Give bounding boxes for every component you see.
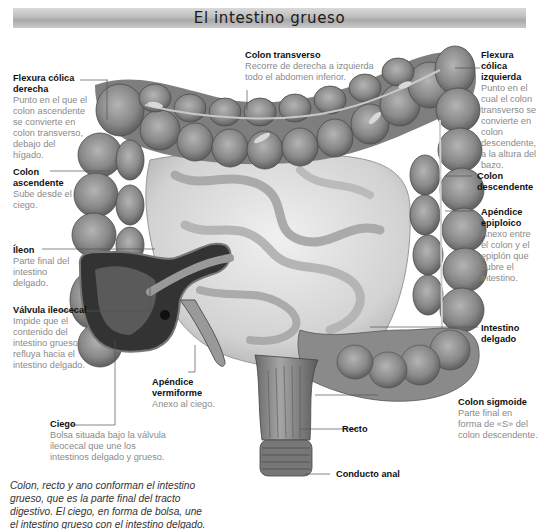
label-desc: Parte final en forma de «S» del colon de… xyxy=(458,408,538,441)
label-flexura-colica-derecha: Flexura cólica derecha Punto en el que e… xyxy=(13,73,88,161)
label-name: Conducto anal xyxy=(336,469,436,480)
label-desc: Anexo entre el colon y el epiplón que cu… xyxy=(481,229,537,284)
label-desc: Recorre de derecha a izquierda todo el a… xyxy=(245,61,375,83)
label-name: Flexura cólica derecha xyxy=(13,73,88,95)
label-conducto-anal: Conducto anal xyxy=(336,469,436,480)
label-name: Colon ascendente xyxy=(13,167,83,189)
label-name: Apéndice epiploico xyxy=(481,207,537,229)
rectum xyxy=(255,355,318,440)
label-recto: Recto xyxy=(342,424,392,435)
label-flexura-colica-izquierda: Flexura cólica izquierda Punto en el cua… xyxy=(481,50,537,171)
label-desc: Punto en el que el colon ascendente se c… xyxy=(13,95,88,161)
label-ileon: Íleon Parte final del intestino delgado. xyxy=(13,245,73,289)
label-desc: Bolsa situada bajo la válvula ileocecal … xyxy=(50,430,170,463)
label-intestino-delgado: Intestino delgado xyxy=(481,323,537,345)
label-name: Recto xyxy=(342,424,392,435)
label-colon-transverso: Colon transverso Recorre de derecha a iz… xyxy=(245,50,375,83)
label-name: Intestino delgado xyxy=(481,323,537,345)
label-name: Colon descendente xyxy=(477,171,539,193)
label-colon-sigmoide: Colon sigmoide Parte final en forma de «… xyxy=(458,397,538,441)
label-apendice-epiploico: Apéndice epiploico Anexo entre el colon … xyxy=(481,207,537,284)
label-colon-ascendente: Colon ascendente Sube desde el ciego. xyxy=(13,167,83,211)
label-colon-descendente: Colon descendente xyxy=(477,171,539,193)
label-desc: Sube desde el ciego. xyxy=(13,189,83,211)
label-ciego: Ciego Bolsa situada bajo la válvula ileo… xyxy=(50,419,170,463)
label-name: Flexura cólica izquierda xyxy=(481,50,537,83)
label-desc: Impide que el contenido del intestino gr… xyxy=(13,316,98,371)
label-valvula-ileocecal: Válvula ileocecal Impide que el contenid… xyxy=(13,305,98,371)
label-name: Apéndice vermiforme xyxy=(152,377,227,399)
label-desc: Punto en el cual el colon transverso se … xyxy=(481,83,537,171)
label-desc: Anexo al ciego. xyxy=(152,399,227,410)
label-name: Íleon xyxy=(13,245,73,256)
anal-canal xyxy=(260,440,312,476)
caption: Colon, recto y ano conforman el intestin… xyxy=(10,479,210,529)
label-name: Válvula ileocecal xyxy=(13,305,98,316)
label-name: Colon sigmoide xyxy=(458,397,538,408)
sigmoid-colon xyxy=(298,328,479,401)
label-name: Colon transverso xyxy=(245,50,375,61)
label-desc: Parte final del intestino delgado. xyxy=(13,256,73,289)
label-apendice-vermiforme: Apéndice vermiforme Anexo al ciego. xyxy=(152,377,227,410)
label-name: Ciego xyxy=(50,419,170,430)
